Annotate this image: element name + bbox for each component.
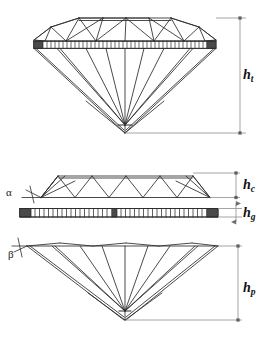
dimension-label-hc: hc bbox=[243, 178, 255, 194]
full-stone-crown-facets bbox=[34, 18, 216, 41]
angle-label-beta: β bbox=[8, 249, 14, 260]
dimension-symbol-hc: h bbox=[243, 177, 251, 192]
dimension-lines bbox=[125, 16, 246, 321]
gemstone-proportions-figure: ht hc hg hp α β bbox=[0, 0, 272, 364]
dimension-label-ht: ht bbox=[243, 68, 253, 84]
dimension-label-hp: hp bbox=[243, 281, 256, 297]
pavilion-view bbox=[12, 238, 218, 320]
angle-label-alpha: α bbox=[6, 187, 12, 198]
full-stone-pavilion bbox=[34, 48, 216, 133]
dimension-label-hg: hg bbox=[243, 206, 256, 222]
girdle-view bbox=[20, 209, 218, 218]
dimension-subscript-ht: t bbox=[251, 74, 254, 84]
crown-view bbox=[22, 176, 210, 203]
dimension-hg bbox=[218, 204, 242, 223]
dimension-symbol-hp: h bbox=[243, 280, 251, 295]
dimension-symbol-hg: h bbox=[243, 205, 251, 220]
full-stone-view bbox=[34, 18, 216, 133]
dimension-ht bbox=[125, 16, 246, 134]
diagram-canvas bbox=[0, 0, 272, 364]
full-stone-girdle bbox=[34, 41, 216, 48]
dimension-subscript-hp: p bbox=[251, 287, 256, 297]
dimension-subscript-hg: g bbox=[251, 212, 256, 222]
dimension-symbol-ht: h bbox=[243, 67, 251, 82]
dimension-subscript-hc: c bbox=[251, 184, 255, 194]
